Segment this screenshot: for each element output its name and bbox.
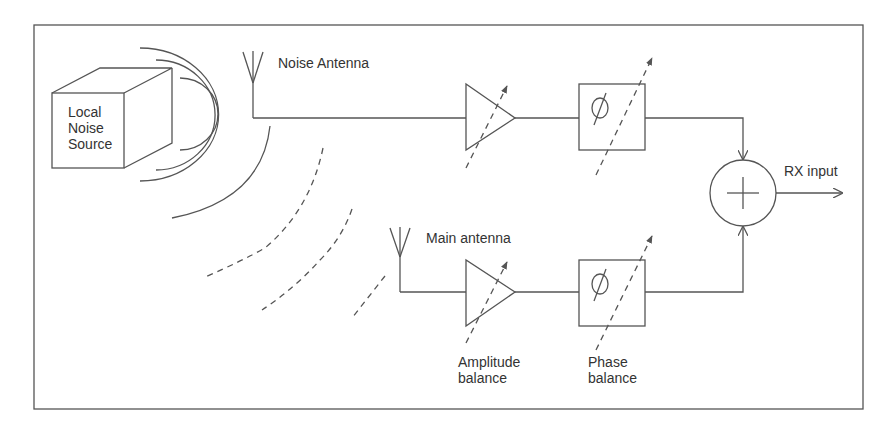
noise-antenna-label: Noise Antenna xyxy=(278,55,369,71)
local-noise-source-block: Local Noise Source xyxy=(52,68,172,168)
noise-source-label-line-2: Noise xyxy=(68,120,104,136)
top-phase-shifter-block xyxy=(579,58,652,175)
noise-cancelling-diagram: Local Noise Source Noise Antenna xyxy=(0,0,895,425)
bottom-signal-line-3 xyxy=(645,227,743,292)
noise-antenna-icon xyxy=(243,51,263,118)
diagram-frame xyxy=(34,25,863,409)
rx-input-label: RX input xyxy=(784,163,838,179)
top-signal-line-3 xyxy=(645,118,743,159)
main-antenna-label: Main antenna xyxy=(426,230,511,246)
phase-balance-label-line-1: Phase xyxy=(588,354,628,370)
noise-source-label-line-3: Source xyxy=(68,136,113,152)
dashed-radiation-arcs-icon xyxy=(205,148,385,318)
bottom-amplifier-icon xyxy=(466,260,515,343)
noise-source-label-line-1: Local xyxy=(68,104,101,120)
phase-balance-label-line-2: balance xyxy=(588,370,637,386)
summing-junction-icon xyxy=(710,160,776,226)
main-antenna-icon xyxy=(390,227,410,292)
amplitude-balance-label-line-2: balance xyxy=(458,370,507,386)
top-amplifier-icon xyxy=(466,84,515,168)
bottom-phase-shifter-block xyxy=(579,236,652,350)
amplitude-balance-label-line-1: Amplitude xyxy=(458,354,520,370)
